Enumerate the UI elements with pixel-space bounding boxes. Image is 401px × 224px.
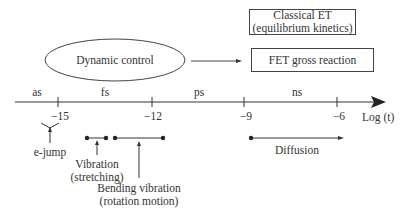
axis-label: Log (t) (362, 111, 394, 124)
unit-as: as (32, 86, 42, 99)
tick-label-minus9: −9 (240, 110, 252, 123)
e-jump-label: e-jump (34, 146, 67, 159)
vibration-title: Vibration (70, 158, 123, 171)
e-jump-marker (41, 123, 59, 143)
vibration-range (85, 136, 108, 155)
tick-label-minus12: −12 (144, 110, 162, 123)
bending-title: Bending vibration (97, 182, 180, 195)
arrowhead-icon (236, 59, 242, 63)
vibration-label: Vibration (stretching) (70, 158, 123, 184)
diffusion-label: Diffusion (275, 144, 319, 157)
unit-ns: ns (292, 86, 302, 99)
tick-label-minus15: −15 (51, 110, 69, 123)
bending-subtitle: (rotation motion) (97, 195, 180, 208)
unit-fs: fs (101, 86, 109, 99)
classical-et-title: Classical ET (273, 9, 331, 22)
unit-ps: ps (194, 86, 204, 99)
fet-gross-reaction-box: FET gross reaction (251, 48, 374, 72)
tick-label-minus6: −6 (333, 110, 345, 123)
bending-label: Bending vibration (rotation motion) (97, 182, 180, 208)
classical-et-subtitle: (equilibrium kinetics) (253, 22, 353, 35)
dynamic-control-label: Dynamic control (76, 54, 154, 67)
classical-et-box: Classical ET (equilibrium kinetics) (249, 9, 356, 35)
fet-label: FET gross reaction (269, 54, 356, 67)
diffusion-range (249, 136, 344, 140)
